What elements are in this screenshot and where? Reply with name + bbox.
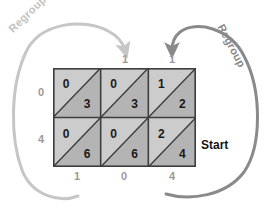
regroup-left-label: Regroup — [6, 0, 48, 35]
cell-upper-digit: 0 — [110, 127, 117, 141]
top-label-1: 1 — [164, 53, 180, 65]
cell-upper-digit: 0 — [63, 77, 70, 91]
lattice-cell-r0c2: 1 2 — [148, 68, 196, 118]
lattice-cell-r1c0: 0 6 — [53, 118, 101, 168]
cell-lower-digit: 2 — [179, 97, 186, 111]
cell-lower-digit: 6 — [131, 147, 138, 161]
bottom-label-0: 1 — [69, 170, 85, 182]
lattice-grid: 0 3 0 3 1 2 0 6 0 — [53, 68, 196, 167]
cell-upper-digit: 0 — [110, 77, 117, 91]
top-label-0: 1 — [117, 53, 133, 65]
left-label-0: 0 — [33, 86, 49, 98]
lattice-cell-r1c2: 2 4 — [148, 118, 196, 168]
bottom-label-2: 4 — [164, 170, 180, 182]
left-label-1: 4 — [33, 133, 49, 145]
cell-lower-digit: 6 — [84, 147, 91, 161]
cell-lower-digit: 4 — [179, 147, 186, 161]
regroup-right-label: Regroup — [215, 22, 248, 69]
lattice-cell-r0c1: 0 3 — [101, 68, 149, 118]
cell-upper-digit: 2 — [158, 127, 165, 141]
cell-lower-digit: 3 — [84, 97, 91, 111]
lattice-cell-r0c0: 0 3 — [53, 68, 101, 118]
bottom-label-1: 0 — [116, 170, 132, 182]
lattice-multiplication-diagram: 0 3 0 3 1 2 0 6 0 — [0, 0, 274, 215]
cell-lower-digit: 3 — [131, 97, 138, 111]
start-label: Start — [201, 138, 228, 152]
cell-upper-digit: 1 — [158, 77, 165, 91]
cell-upper-digit: 0 — [63, 127, 70, 141]
lattice-cell-r1c1: 0 6 — [101, 118, 149, 168]
